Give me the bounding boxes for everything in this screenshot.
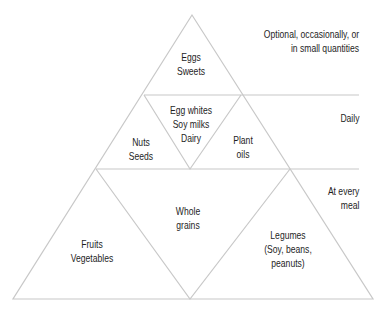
group-line: Plant — [233, 133, 253, 147]
group-egg-whites-soy-dairy: Egg whites Soy milks Dairy — [170, 103, 212, 145]
group-line: (Soy, beans, — [264, 242, 312, 256]
frequency-label-middle: Daily — [340, 111, 359, 125]
group-line: Sweets — [177, 64, 205, 78]
frequency-line: Daily — [340, 111, 359, 125]
frequency-line: in small quantities — [264, 41, 359, 55]
group-line: Soy milks — [170, 117, 212, 131]
group-line: Fruits — [71, 237, 113, 251]
frequency-line: meal — [328, 198, 359, 212]
group-legumes: Legumes (Soy, beans, peanuts) — [264, 228, 312, 270]
group-nuts-seeds: Nuts Seeds — [129, 135, 153, 163]
group-line: Dairy — [170, 131, 212, 145]
group-eggs-sweets: Eggs Sweets — [177, 50, 205, 78]
bottom-inverted-triangle — [96, 169, 290, 299]
group-line: grains — [176, 218, 200, 232]
group-fruits-vegetables: Fruits Vegetables — [71, 237, 113, 265]
group-line: Legumes — [264, 228, 312, 242]
group-plant-oils: Plant oils — [233, 133, 253, 161]
group-line: Whole — [176, 204, 200, 218]
group-line: Egg whites — [170, 103, 212, 117]
group-whole-grains: Whole grains — [176, 204, 200, 232]
frequency-label-top: Optional, occasionally, or in small quan… — [264, 27, 359, 55]
group-line: Nuts — [129, 135, 153, 149]
frequency-label-bottom: At every meal — [328, 184, 359, 212]
frequency-line: At every — [328, 184, 359, 198]
group-line: peanuts) — [264, 256, 312, 270]
frequency-line: Optional, occasionally, or — [264, 27, 359, 41]
group-line: oils — [233, 147, 253, 161]
group-line: Seeds — [129, 149, 153, 163]
group-line: Vegetables — [71, 251, 113, 265]
group-line: Eggs — [177, 50, 205, 64]
